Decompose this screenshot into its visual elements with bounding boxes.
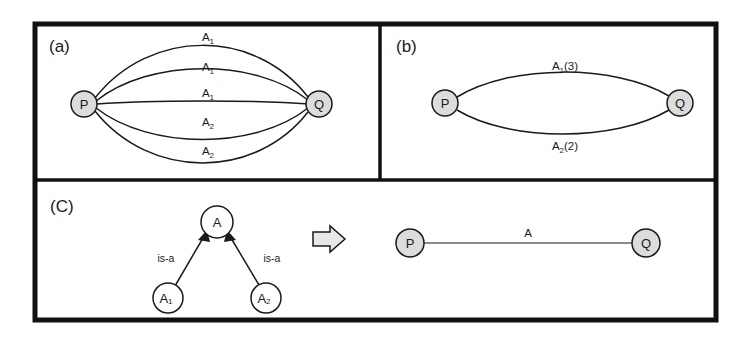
node-label: P [406, 236, 415, 251]
node-label: P [80, 97, 89, 112]
panel-a-edge-label-4: A2 [202, 116, 215, 131]
node-label: A [213, 215, 222, 230]
panel-a-node-p: P [71, 91, 97, 117]
panel-b-edge-2 [457, 110, 669, 134]
node-label: Q [675, 96, 685, 111]
node-label: P [441, 96, 450, 111]
node-label: Q [641, 236, 651, 251]
panel-c-result-node-p: P [396, 229, 424, 257]
panel-c-isa-line-2 [231, 238, 259, 285]
panel-a-edge-label-3: A1 [202, 87, 215, 102]
panel-c-node-a: A [201, 206, 233, 238]
node-label: Q [314, 97, 324, 112]
panel-c-node-a2: A2 [251, 283, 281, 313]
outer-frame [35, 24, 716, 320]
transform-block-arrow [313, 226, 345, 252]
panel-a-edge-label-5: A2 [202, 145, 215, 160]
panel-c-node-a1: A1 [153, 283, 183, 313]
figure-root: (a) A1 A1 A1 A2 A2 [0, 0, 748, 343]
panel-c-isa-line-1 [175, 238, 203, 286]
panel-a-node-q: Q [306, 91, 332, 117]
panel-b-tag: (b) [396, 37, 417, 56]
panel-a-edge-label-1: A1 [202, 31, 215, 46]
panel-b-edge-1 [457, 72, 669, 97]
panel-c-tag: (C) [50, 197, 74, 216]
panel-c: (C) is-a is-a A A1 [50, 197, 660, 313]
panel-c-result-node-q: Q [632, 229, 660, 257]
panel-c-result-edge-label: A [524, 227, 532, 239]
panel-c-isa-label-2: is-a [264, 252, 281, 264]
panel-a: (a) A1 A1 A1 A2 A2 [49, 31, 332, 163]
panel-b-node-p: P [432, 90, 458, 116]
panel-a-edge-label-2: A1 [202, 61, 215, 76]
panel-b-edge-label-2: A2(2) [552, 140, 578, 155]
panel-b-node-q: Q [667, 90, 693, 116]
panel-a-edge-3 [97, 101, 309, 104]
panel-a-tag: (a) [49, 37, 70, 56]
diagram-canvas: (a) A1 A1 A1 A2 A2 [0, 0, 748, 343]
panel-b: (b) A1(3) A2(2) P Q [396, 37, 693, 155]
panel-c-isa-label-1: is-a [158, 252, 175, 264]
